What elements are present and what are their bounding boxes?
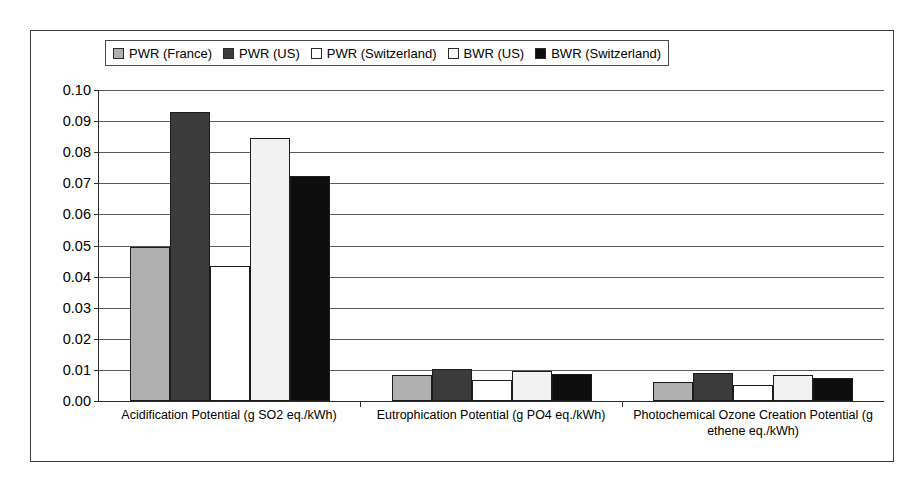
legend-swatch-icon [311,48,322,59]
y-axis-tick-label: 0.10 [63,83,91,98]
bar [250,138,290,401]
bar [653,382,693,401]
bar [290,176,330,401]
legend-label: PWR (US) [239,47,300,60]
legend-swatch-icon [113,48,124,59]
bar [733,385,773,401]
legend-swatch-icon [535,48,546,59]
y-axis-tick-label: 0.03 [63,300,91,315]
y-axis-tick-label: 0.07 [63,176,91,191]
category-axis-tick [622,402,623,407]
bar [392,375,432,401]
category-axis-labels: Acidification Potential (g SO2 eq./kWh)E… [98,407,884,463]
bar [472,380,512,401]
legend-item: PWR (US) [223,47,300,60]
y-axis-tick-label: 0.08 [63,145,91,160]
y-axis-tick-label: 0.06 [63,207,91,222]
y-axis-tick-label: 0.05 [63,238,91,253]
bar [773,375,813,401]
legend-label: PWR (France) [129,47,212,60]
bar [693,373,733,401]
y-axis-tick [94,401,99,402]
bar [552,374,592,401]
bar [432,369,472,401]
legend-label: BWR (US) [464,47,525,60]
y-axis-tick-label: 0.02 [63,332,91,347]
legend-label: BWR (Switzerland) [551,47,661,60]
legend-label: PWR (Switzerland) [327,47,437,60]
bar [130,247,170,401]
category-axis-tick [360,402,361,407]
legend-item: BWR (US) [448,47,525,60]
bar [813,378,853,401]
category-label: Eutrophication Potential (g PO4 eq./kWh) [366,407,616,423]
bar [170,112,210,401]
bars-layer [99,90,884,401]
category-label: Photochemical Ozone Creation Potential (… [628,407,878,439]
legend-item: PWR (Switzerland) [311,47,437,60]
chart-frame: PWR (France)PWR (US)PWR (Switzerland)BWR… [30,30,894,462]
chart-legend: PWR (France)PWR (US)PWR (Switzerland)BWR… [105,40,669,66]
category-label: Acidification Potential (g SO2 eq./kWh) [104,407,354,423]
bar [210,266,250,401]
y-axis-tick-label: 0.01 [63,363,91,378]
plot-area: 0.100.090.080.070.060.050.040.030.020.01… [98,90,884,402]
legend-swatch-icon [448,48,459,59]
legend-swatch-icon [223,48,234,59]
y-axis-tick-label: 0.04 [63,269,91,284]
legend-item: BWR (Switzerland) [535,47,661,60]
bar [512,371,552,401]
legend-item: PWR (France) [113,47,212,60]
chart-screenshot: PWR (France)PWR (US)PWR (Switzerland)BWR… [0,0,923,490]
y-axis-tick-label: 0.09 [63,114,91,129]
y-axis-tick-label: 0.00 [63,394,91,409]
